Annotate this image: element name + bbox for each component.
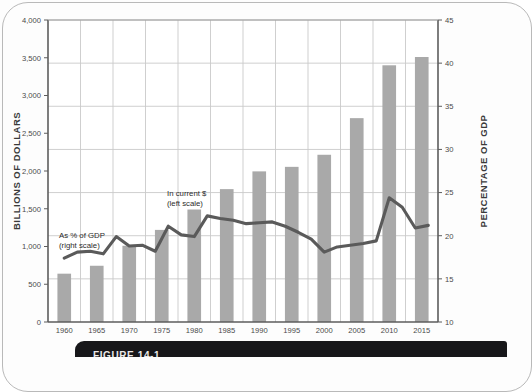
x-tick-label: 1960 <box>56 326 73 335</box>
line-annotation-line2: (right scale) <box>59 241 100 250</box>
bar <box>382 65 396 322</box>
left-tick-label: 1,000 <box>22 242 41 251</box>
left-tick-label: 2,500 <box>22 129 41 138</box>
right-tick-label: 40 <box>445 59 453 68</box>
right-tick-label: 20 <box>445 232 453 241</box>
right-tick-label: 15 <box>445 275 453 284</box>
x-tick-label: 1995 <box>283 326 300 335</box>
bar <box>122 246 136 322</box>
left-tick-label: 4,000 <box>22 16 41 25</box>
bar <box>220 189 234 322</box>
left-tick-label: 3,500 <box>22 54 41 63</box>
bar <box>90 266 104 322</box>
bar <box>350 118 364 322</box>
figure-caption-bar: FIGURE 14-1 <box>75 341 507 357</box>
left-tick-label: 3,000 <box>22 91 41 100</box>
x-tick-label: 1965 <box>88 326 105 335</box>
left-axis-ticks: 05001,0001,5002,0002,5003,0003,5004,000 <box>22 16 48 327</box>
left-tick-label: 500 <box>28 280 41 289</box>
x-tick-label: 2010 <box>381 326 398 335</box>
right-tick-label: 10 <box>445 318 453 327</box>
x-tick-label: 1970 <box>121 326 138 335</box>
bars-annotation-line2: (left scale) <box>167 199 203 208</box>
bar <box>252 171 266 322</box>
left-axis-title: BILLIONS OF DOLLARS <box>11 112 22 230</box>
x-tick-label: 1975 <box>153 326 170 335</box>
left-tick-label: 1,500 <box>22 205 41 214</box>
right-axis-title: PERCENTAGE OF GDP <box>478 114 489 227</box>
x-tick-label: 1990 <box>251 326 268 335</box>
bar <box>415 57 429 322</box>
right-tick-label: 35 <box>445 102 453 111</box>
left-tick-label: 0 <box>37 318 41 327</box>
x-axis-ticks: 1960196519701975198019851990199520002005… <box>56 326 430 335</box>
bar <box>317 155 331 322</box>
right-tick-label: 30 <box>445 145 453 154</box>
x-tick-label: 1980 <box>186 326 203 335</box>
bar <box>155 230 169 322</box>
line-annotation-line1: As % of GDP <box>59 231 105 240</box>
right-tick-label: 45 <box>445 16 453 25</box>
right-tick-label: 25 <box>445 188 453 197</box>
x-tick-label: 1985 <box>218 326 235 335</box>
figure-caption-text: FIGURE 14-1 <box>93 350 160 357</box>
bars-annotation-line1: In current $ <box>167 189 207 198</box>
x-tick-label: 2005 <box>348 326 365 335</box>
x-tick-label: 2000 <box>316 326 333 335</box>
bar <box>57 274 71 322</box>
right-axis-ticks: 1015202530354045 <box>438 16 453 327</box>
x-tick-label: 2015 <box>413 326 430 335</box>
bar <box>285 167 299 322</box>
left-tick-label: 2,000 <box>22 167 41 176</box>
